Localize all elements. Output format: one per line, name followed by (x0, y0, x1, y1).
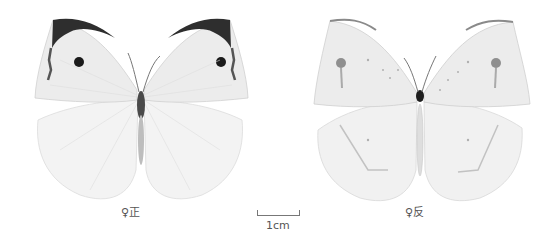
specimen-dorsal-female (20, 0, 270, 210)
specimen-label-ventral: ♀反 (405, 203, 424, 219)
scale-bar-label: 1cm (266, 219, 290, 232)
butterfly-dorsal-image (20, 0, 270, 210)
butterfly-ventral-image (298, 0, 548, 210)
specimen-label-dorsal: ♀正 (121, 203, 140, 219)
wing-spot-left (74, 57, 84, 67)
specimen-ventral-female (298, 0, 548, 210)
wing-spot-right (216, 57, 226, 67)
scale-bar (257, 210, 300, 216)
